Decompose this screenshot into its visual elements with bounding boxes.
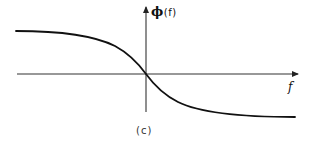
phase-plot-figure: ϕ(f) f (c) (0, 0, 310, 146)
phi-symbol: ϕ (151, 4, 164, 19)
x-axis-label: f (288, 80, 292, 94)
figure-caption: (c) (136, 125, 152, 136)
phi-argument: (f) (164, 7, 177, 18)
plot-canvas (0, 0, 310, 146)
y-axis-label: ϕ(f) (151, 4, 177, 19)
